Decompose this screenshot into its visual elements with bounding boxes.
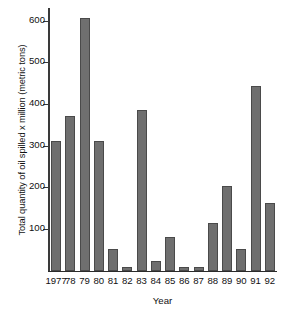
x-axis-tick-label: 92 [251, 274, 289, 287]
bar-series [49, 8, 277, 271]
y-axis-tick-label: 300 [29, 139, 45, 151]
bar [208, 223, 218, 271]
bar [251, 86, 261, 271]
y-axis-title: Total quantity of oil spilled x million … [14, 0, 30, 280]
bar [137, 110, 147, 270]
bar [80, 18, 90, 271]
y-axis-tick-label: 200 [29, 180, 45, 192]
bar [94, 141, 104, 270]
y-axis-tick-label: 500 [29, 55, 45, 67]
bar-chart-figure: Total quantity of oil spilled x million … [0, 0, 295, 315]
y-axis-tick-label: 100 [29, 222, 45, 234]
bar [194, 267, 204, 270]
bar [236, 249, 246, 271]
x-axis-tick-labels: 1977787980818283848586878889909192 [48, 274, 277, 288]
bar [51, 141, 61, 270]
y-axis-tick-label: 400 [29, 97, 45, 109]
y-axis-tick-label: 600 [29, 14, 45, 26]
x-axis-line [48, 271, 277, 273]
plot-area: 100200300400500600 [48, 8, 277, 272]
bar [108, 249, 118, 271]
bar [265, 203, 275, 271]
x-axis-title: Year [48, 294, 277, 307]
bar [165, 237, 175, 270]
bar [122, 267, 132, 270]
bar [151, 261, 161, 270]
bar [179, 267, 189, 270]
bar [65, 116, 75, 271]
bar [222, 186, 232, 270]
